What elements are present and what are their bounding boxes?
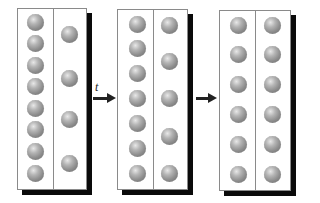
particle-right	[264, 17, 281, 34]
panel-2-membrane	[153, 10, 154, 189]
particle-right	[161, 90, 178, 107]
arrow-right-icon	[196, 97, 210, 100]
particle-left	[27, 57, 44, 74]
particle-right	[61, 70, 78, 87]
particle-left	[129, 165, 146, 182]
particle-right	[161, 17, 178, 34]
arrow-right-icon	[93, 97, 109, 100]
particle-right	[264, 46, 281, 63]
time-label: t	[95, 80, 98, 95]
particle-left	[230, 76, 247, 93]
particle-right	[264, 106, 281, 123]
particle-left	[27, 121, 44, 138]
particle-left	[129, 115, 146, 132]
particle-left	[230, 46, 247, 63]
particle-left	[129, 40, 146, 57]
particle-right	[264, 76, 281, 93]
panel-3-membrane	[255, 11, 256, 190]
particle-left	[27, 165, 44, 182]
particle-left	[129, 65, 146, 82]
particle-left	[230, 106, 247, 123]
particle-right	[61, 26, 78, 43]
particle-left	[27, 14, 44, 31]
particle-left	[129, 90, 146, 107]
panel-1-membrane	[53, 9, 54, 189]
particle-left	[129, 16, 146, 33]
particle-right	[161, 128, 178, 145]
particle-right	[264, 166, 281, 183]
particle-left	[230, 136, 247, 153]
panel-3-container	[219, 10, 291, 191]
particle-left	[129, 140, 146, 157]
particle-left	[230, 17, 247, 34]
particle-right	[61, 155, 78, 172]
particle-left	[27, 100, 44, 117]
particle-left	[27, 78, 44, 95]
particle-right	[161, 53, 178, 70]
particle-left	[230, 166, 247, 183]
particle-right	[61, 111, 78, 128]
particle-left	[27, 35, 44, 52]
particle-right	[161, 165, 178, 182]
particle-right	[264, 136, 281, 153]
particle-left	[27, 143, 44, 160]
